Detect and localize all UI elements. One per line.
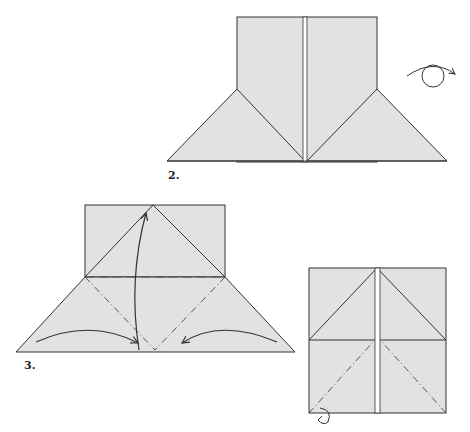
step-4-figure bbox=[309, 268, 446, 424]
step-2-figure bbox=[167, 17, 447, 162]
step-3-label: 3. bbox=[24, 359, 35, 372]
step-3-figure bbox=[16, 205, 295, 352]
origami-diagram bbox=[0, 0, 470, 432]
step-2-label: 2. bbox=[168, 169, 179, 182]
turn-over-icon bbox=[407, 65, 455, 87]
